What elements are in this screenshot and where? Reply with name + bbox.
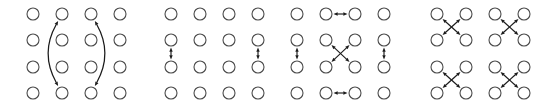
vertical-arrow-col-4-head-end [256, 55, 259, 59]
lattice-node [489, 34, 501, 46]
vertical-arrow-col-1-head-start [169, 48, 172, 52]
panel-4-canvas [419, 0, 542, 112]
lattice-node [378, 34, 390, 46]
horizontal-arrow-row-1-head-start [334, 12, 338, 15]
vertical-arrow-col-4-head-end [382, 55, 385, 59]
lattice-node [291, 8, 303, 20]
panel-4-arrows [443, 19, 519, 88]
lattice-node [114, 8, 126, 20]
lattice-coupling-figure [0, 0, 552, 112]
lattice-node [56, 34, 68, 46]
panel-3-canvas [279, 0, 402, 112]
lattice-node [320, 87, 332, 99]
lattice-node [349, 61, 361, 73]
vertical-arrow-col-4-head-start [382, 48, 385, 52]
lattice-node [291, 87, 303, 99]
panel-2-nodes [165, 8, 264, 99]
curved-arrow-column-2-shaft [48, 25, 56, 83]
short-range-vertical-coupling [153, 0, 276, 112]
lattice-node [291, 34, 303, 46]
lattice-node [518, 87, 530, 99]
curved-arrow-column-3-head-start [95, 82, 99, 86]
lattice-node [252, 61, 264, 73]
lattice-node [489, 87, 501, 99]
lattice-node [518, 34, 530, 46]
lattice-node [489, 8, 501, 20]
lattice-node [431, 34, 443, 46]
lattice-node [27, 61, 39, 73]
lattice-node [27, 34, 39, 46]
lattice-node [431, 87, 443, 99]
panel-1-canvas [15, 0, 138, 112]
panel-3-arrows [295, 12, 385, 94]
lattice-node [431, 8, 443, 20]
lattice-node [252, 87, 264, 99]
lattice-node [165, 61, 177, 73]
lattice-node [165, 8, 177, 20]
lattice-node [460, 61, 472, 73]
four-plaquette-diagonal-coupling [419, 0, 542, 112]
lattice-node [320, 34, 332, 46]
lattice-node [27, 87, 39, 99]
lattice-node [85, 8, 97, 20]
lattice-node [114, 34, 126, 46]
horizontal-arrow-row-1-head-end [343, 12, 347, 15]
lattice-node [165, 87, 177, 99]
lattice-node [518, 8, 530, 20]
lattice-node [460, 8, 472, 20]
lattice-node [460, 87, 472, 99]
lattice-node [85, 87, 97, 99]
lattice-node [165, 34, 177, 46]
lattice-node [378, 61, 390, 73]
lattice-node [460, 34, 472, 46]
curved-arrow-column-2-head-start [55, 82, 59, 86]
vertical-arrow-col-1-head-end [295, 55, 298, 59]
long-range-vertical-coupling [15, 0, 138, 112]
curved-arrow-column-3-head-end [95, 21, 99, 25]
lattice-node [291, 61, 303, 73]
panel-2-arrows [169, 48, 259, 60]
panel-2-canvas [153, 0, 276, 112]
lattice-node [194, 61, 206, 73]
lattice-node [378, 8, 390, 20]
lattice-node [252, 8, 264, 20]
lattice-node [194, 34, 206, 46]
lattice-node [56, 61, 68, 73]
vertical-arrow-col-1-head-start [295, 48, 298, 52]
lattice-node [320, 61, 332, 73]
lattice-node [252, 34, 264, 46]
lattice-node [85, 61, 97, 73]
lattice-node [431, 61, 443, 73]
horizontal-arrow-row-4-head-end [343, 91, 347, 94]
lattice-node [489, 61, 501, 73]
lattice-node [194, 87, 206, 99]
lattice-node [223, 61, 235, 73]
lattice-node [349, 87, 361, 99]
lattice-node [194, 8, 206, 20]
lattice-node [518, 61, 530, 73]
horizontal-arrow-row-4-head-start [334, 91, 338, 94]
lattice-node [320, 8, 332, 20]
lattice-node [378, 87, 390, 99]
vertical-arrow-col-1-head-end [169, 55, 172, 59]
curved-arrow-column-2-head-end [55, 21, 59, 25]
vertical-arrow-col-4-head-start [256, 48, 259, 52]
lattice-node [85, 34, 97, 46]
lattice-node [223, 8, 235, 20]
lattice-node [349, 8, 361, 20]
mixed-plaquette-coupling [279, 0, 402, 112]
lattice-node [223, 34, 235, 46]
lattice-node [349, 34, 361, 46]
lattice-node [223, 87, 235, 99]
lattice-node [27, 8, 39, 20]
lattice-node [114, 61, 126, 73]
panel-1-arrows [48, 21, 105, 86]
panel-1-nodes [27, 8, 126, 99]
lattice-node [56, 87, 68, 99]
lattice-node [56, 8, 68, 20]
curved-arrow-column-3-shaft [97, 25, 105, 83]
lattice-node [114, 87, 126, 99]
